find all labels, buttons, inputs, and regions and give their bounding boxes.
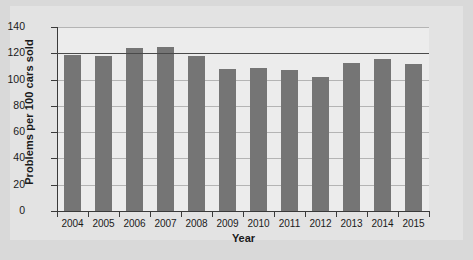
y-tick-40 [51, 158, 58, 159]
x-axis-title: Year [57, 232, 430, 244]
y-tick-60 [51, 132, 58, 133]
y-tick-100 [51, 80, 58, 81]
x-tick-label-2013: 2013 [336, 218, 367, 229]
x-tick-label-2015: 2015 [398, 218, 429, 229]
x-tick-label-2014: 2014 [367, 218, 398, 229]
y-tick-label-80: 80 [0, 99, 25, 111]
x-tick-2014 [367, 211, 368, 217]
y-tick-label-0: 0 [0, 204, 25, 216]
y-tick-label-20: 20 [0, 178, 25, 190]
x-tick-label-2008: 2008 [181, 218, 212, 229]
x-tick-2005 [88, 211, 89, 217]
bar-2013 [343, 63, 360, 212]
x-tick-2012 [305, 211, 306, 217]
bar-2008 [188, 56, 205, 211]
bar-2004 [64, 55, 81, 211]
y-tick-label-140: 140 [0, 20, 25, 32]
emphasis-gridline [57, 53, 429, 54]
x-tick-label-2011: 2011 [274, 218, 305, 229]
y-tick-140 [51, 27, 58, 28]
x-tick-label-2007: 2007 [150, 218, 181, 229]
x-tick-2008 [181, 211, 182, 217]
x-tick-2013 [336, 211, 337, 217]
x-tick-label-2010: 2010 [243, 218, 274, 229]
y-tick-80 [51, 106, 58, 107]
y-tick-label-100: 100 [0, 73, 25, 85]
x-tick-2011 [274, 211, 275, 217]
x-tick-label-2006: 2006 [119, 218, 150, 229]
bar-2007 [157, 47, 174, 211]
y-tick-label-60: 60 [0, 125, 25, 137]
bar-2010 [250, 68, 267, 211]
y-tick-label-120: 120 [0, 46, 25, 58]
x-tick-end [429, 211, 430, 217]
gridline-140 [57, 27, 429, 28]
x-tick-label-2009: 2009 [212, 218, 243, 229]
bar-2006 [126, 48, 143, 211]
x-tick-2007 [150, 211, 151, 217]
y-tick-20 [51, 185, 58, 186]
bar-2015 [405, 64, 422, 211]
bar-2012 [312, 77, 329, 211]
x-tick-2004 [57, 211, 58, 217]
bar-2005 [95, 56, 112, 211]
x-tick-label-2012: 2012 [305, 218, 336, 229]
x-tick-label-2005: 2005 [88, 218, 119, 229]
x-tick-2010 [243, 211, 244, 217]
x-tick-2006 [119, 211, 120, 217]
chart-figure: Problems per 100 cars sold Year 02040608… [10, 6, 463, 240]
x-tick-2009 [212, 211, 213, 217]
bar-2009 [219, 69, 236, 211]
bar-2011 [281, 70, 298, 211]
y-tick-label-40: 40 [0, 151, 25, 163]
x-tick-2015 [398, 211, 399, 217]
plot-area [57, 27, 429, 211]
x-tick-label-2004: 2004 [57, 218, 88, 229]
bar-2014 [374, 59, 391, 211]
